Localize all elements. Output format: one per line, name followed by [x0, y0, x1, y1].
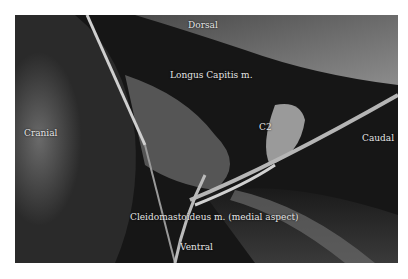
label-dorsal: Dorsal: [188, 20, 218, 30]
label-cleidomastoideus: Cleidomastoideus m. (medial aspect): [130, 212, 299, 222]
label-ventral: Ventral: [180, 242, 213, 252]
label-cranial: Cranial: [24, 128, 57, 138]
dissection-photo: Dorsal Longus Capitis m. Cranial C2 Caud…: [15, 15, 398, 263]
label-c2: C2: [259, 122, 272, 132]
label-caudal: Caudal: [362, 133, 394, 143]
label-longus-capitis: Longus Capitis m.: [170, 70, 253, 80]
dissection-photo-graphic: [15, 15, 398, 263]
